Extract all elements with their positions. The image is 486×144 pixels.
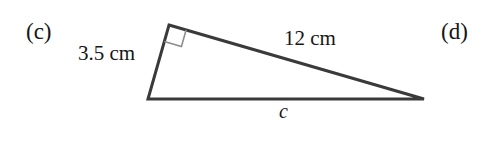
side-label-hypotenuse-leg: 12 cm bbox=[284, 28, 336, 49]
triangle-figure bbox=[0, 0, 486, 144]
part-label-c: (c) bbox=[26, 20, 52, 43]
side-label-vertical-leg: 3.5 cm bbox=[78, 43, 135, 64]
figure-canvas: (c) (d) 3.5 cm 12 cm c bbox=[0, 0, 486, 144]
side-label-base: c bbox=[279, 101, 288, 121]
part-label-d: (d) bbox=[441, 20, 468, 43]
